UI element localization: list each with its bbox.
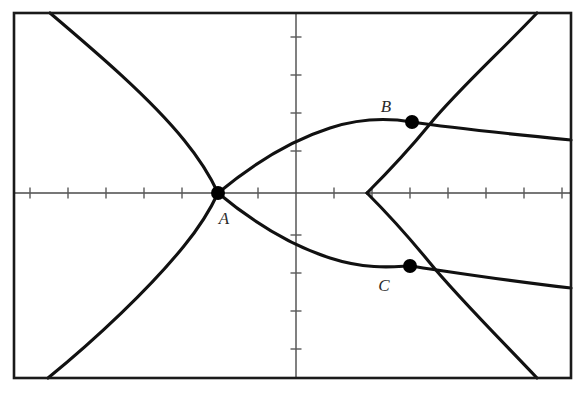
point-label-B: B bbox=[381, 97, 392, 116]
point-label-A: A bbox=[218, 209, 230, 228]
point-marker-A bbox=[211, 186, 225, 200]
figure-container: ABC bbox=[0, 0, 586, 397]
point-label-C: C bbox=[378, 276, 390, 295]
point-marker-B bbox=[405, 115, 419, 129]
elliptic-curve-plot: ABC bbox=[0, 0, 586, 397]
point-marker-C bbox=[403, 259, 417, 273]
